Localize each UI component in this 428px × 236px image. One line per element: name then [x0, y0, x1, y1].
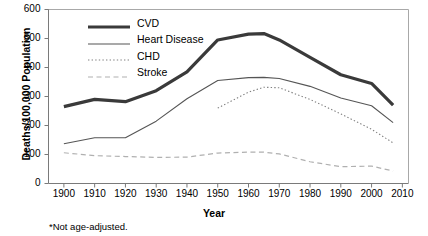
y-axis-title: Deaths/100,000 Population — [20, 4, 32, 184]
series-line-stroke — [64, 152, 393, 171]
legend-label: Heart Disease — [137, 34, 204, 45]
series-line-heart-disease — [64, 77, 393, 143]
legend-item-stroke[interactable]: Stroke — [88, 66, 204, 80]
legend-swatch-icon — [88, 35, 130, 45]
x-axis-ticks — [64, 184, 402, 188]
chart-footnote: *Not age-adjusted. — [49, 221, 128, 232]
chart-plot-area — [0, 0, 428, 236]
x-axis-title: Year — [0, 207, 428, 219]
legend-swatch-icon — [88, 68, 130, 78]
legend-swatch-icon — [88, 18, 130, 28]
legend-swatch-icon — [88, 51, 130, 61]
legend-label: CVD — [137, 18, 159, 29]
chart-figure: 0100200300400500600 19001910192019301940… — [0, 0, 428, 236]
chart-legend: CVDHeart DiseaseCHDStroke — [88, 16, 204, 82]
legend-label: Stroke — [137, 67, 167, 78]
legend-item-cvd[interactable]: CVD — [88, 16, 204, 30]
legend-item-heart-disease[interactable]: Heart Disease — [88, 33, 204, 47]
legend-item-chd[interactable]: CHD — [88, 49, 204, 63]
series-line-chd — [218, 87, 393, 143]
x-tick-label: 2010 — [380, 188, 424, 199]
y-axis-ticks — [45, 10, 49, 184]
legend-label: CHD — [137, 51, 160, 62]
